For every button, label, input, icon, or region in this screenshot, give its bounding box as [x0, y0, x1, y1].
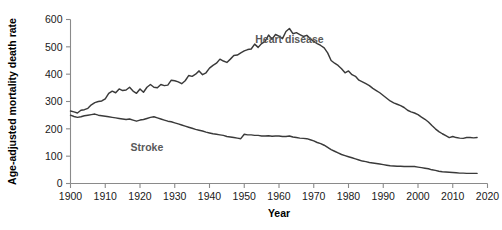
x-tick-label: 1940 — [198, 190, 222, 202]
x-axis-title: Year — [268, 207, 290, 219]
series-label-heart-disease: Heart disease — [255, 33, 323, 45]
x-tick-label: 1980 — [337, 190, 361, 202]
x-tick-label: 1950 — [233, 190, 257, 202]
chart-container: 0100200300400500600 19001910192019301940… — [0, 0, 502, 230]
x-tick-label: 1970 — [302, 190, 326, 202]
y-tick-label: 500 — [45, 41, 63, 53]
y-tick-label: 100 — [45, 150, 63, 162]
y-axis-title: Age-adjusted mortality death rate — [6, 18, 18, 185]
y-tick-label: 600 — [45, 13, 63, 25]
series-line-heart-disease — [71, 29, 478, 139]
y-axis-ticks: 0100200300400500600 — [45, 13, 71, 189]
line-chart: 0100200300400500600 19001910192019301940… — [0, 0, 502, 230]
y-tick-label: 0 — [57, 177, 63, 189]
x-tick-label: 1910 — [94, 190, 118, 202]
x-tick-label: 2010 — [441, 190, 465, 202]
y-tick-label: 300 — [45, 95, 63, 107]
x-tick-label: 1930 — [163, 190, 187, 202]
x-tick-label: 1960 — [267, 190, 291, 202]
x-tick-label: 1990 — [372, 190, 396, 202]
series-labels-group: Heart diseaseStroke — [131, 33, 324, 154]
x-tick-label: 2020 — [476, 190, 500, 202]
series-label-stroke: Stroke — [131, 141, 164, 153]
x-axis-ticks: 1900191019201930194019501960197019801990… — [59, 184, 500, 202]
x-tick-label: 1900 — [59, 190, 83, 202]
y-tick-label: 400 — [45, 68, 63, 80]
y-tick-label: 200 — [45, 123, 63, 135]
x-tick-label: 1920 — [128, 190, 152, 202]
x-tick-label: 2000 — [406, 190, 430, 202]
